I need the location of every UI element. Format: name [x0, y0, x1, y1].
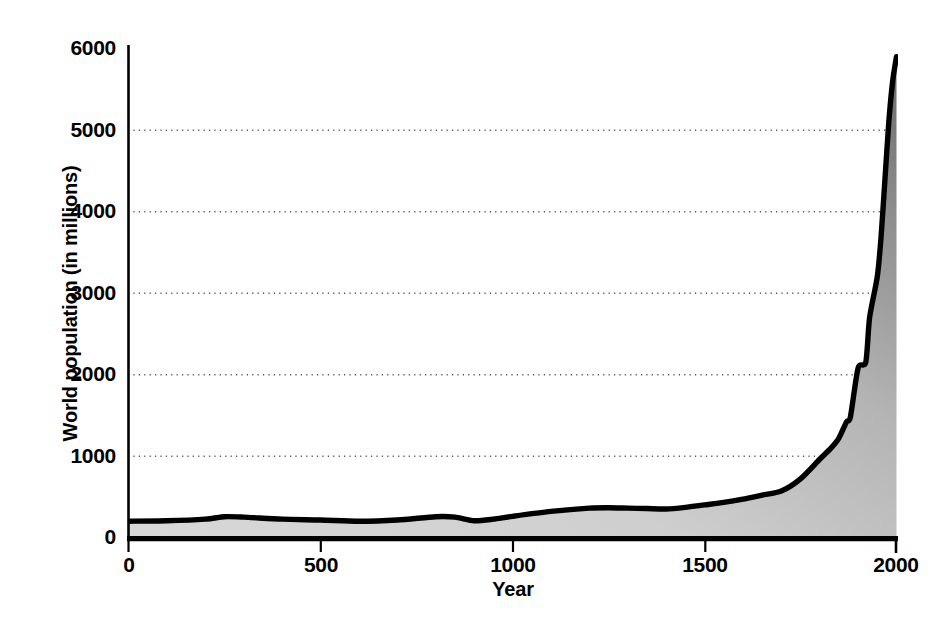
- y-axis-title: World population (in millions): [59, 94, 82, 514]
- y-tick-label-6000: 6000: [38, 36, 116, 60]
- x-tick-label-0: 0: [98, 553, 160, 577]
- x-tick-label-2000: 2000: [856, 553, 936, 577]
- x-tick-label-500: 500: [285, 553, 357, 577]
- x-tick-label-1500: 1500: [665, 553, 745, 577]
- x-axis-title: Year: [128, 578, 898, 601]
- chart-plot-area: [0, 0, 948, 627]
- y-tick-label-0: 0: [38, 525, 116, 549]
- population-chart: 6000 5000 4000 3000 2000 1000 0 0 500 10…: [0, 0, 948, 627]
- population-line: [129, 57, 897, 522]
- gridlines: [128, 130, 897, 456]
- population-area-fill: [129, 57, 897, 538]
- x-tick-label-1000: 1000: [473, 553, 553, 577]
- x-axis-ticks: [129, 540, 706, 552]
